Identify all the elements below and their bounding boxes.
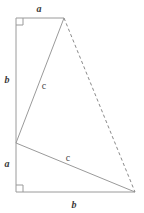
hypotenuse-upper-c-line	[16, 18, 64, 143]
dashed-closing-edge-line	[64, 18, 135, 192]
hypotenuse-lower-c-line	[16, 143, 135, 192]
right-angle-bottom-left-icon	[16, 185, 23, 192]
label-bottom-b: b	[72, 200, 77, 210]
label-left-b: b	[5, 75, 10, 85]
geometry-figure: a b a b c c	[0, 0, 144, 213]
label-upper-c: c	[42, 81, 46, 91]
label-top-a: a	[37, 4, 42, 14]
label-lower-c: c	[66, 153, 70, 163]
right-angle-top-left-icon	[16, 18, 23, 25]
label-left-a: a	[5, 159, 10, 169]
triangle-diagram-canvas	[0, 0, 144, 213]
